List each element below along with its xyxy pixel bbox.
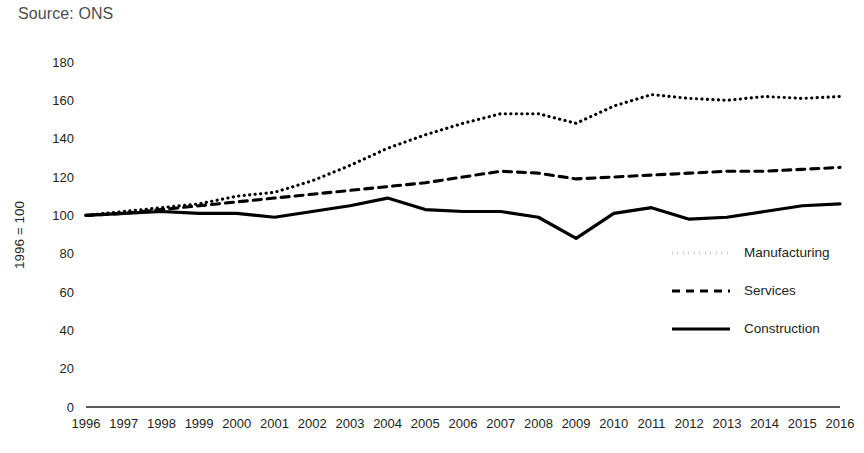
x-tick-label: 2007	[486, 416, 515, 431]
legend-label-manufacturing: Manufacturing	[744, 245, 830, 260]
chart-legend: ManufacturingServicesConstruction	[672, 245, 830, 336]
y-tick-label: 120	[52, 170, 74, 185]
y-tick-label: 20	[60, 361, 74, 376]
y-tick-label: 160	[52, 93, 74, 108]
x-tick-label: 2014	[750, 416, 779, 431]
y-tick-label: 60	[60, 285, 74, 300]
x-tick-label: 2000	[222, 416, 251, 431]
x-tick-label: 2003	[335, 416, 364, 431]
x-axis-ticks: 1996199719981999200020012002200320042005…	[72, 416, 855, 431]
x-tick-label: 2011	[638, 416, 666, 431]
x-tick-label: 2016	[826, 416, 855, 431]
y-tick-label: 80	[60, 246, 74, 261]
y-tick-label: 0	[67, 400, 74, 415]
x-tick-label: 2010	[599, 416, 628, 431]
series-group	[86, 95, 840, 239]
x-tick-label: 2008	[524, 416, 553, 431]
x-tick-label: 2001	[260, 416, 289, 431]
line-chart-plot: 1996 = 100 020406080100120140160180 1996…	[0, 0, 864, 453]
x-tick-label: 2004	[373, 416, 402, 431]
y-axis-ticks: 020406080100120140160180	[52, 55, 74, 415]
legend-label-construction: Construction	[744, 321, 820, 336]
y-tick-label: 140	[52, 131, 74, 146]
chart-container: Source: ONS 1996 = 100 02040608010012014…	[0, 0, 864, 453]
y-tick-label: 40	[60, 323, 74, 338]
x-tick-label: 1996	[72, 416, 101, 431]
y-tick-label: 100	[52, 208, 74, 223]
y-tick-label: 180	[52, 55, 74, 70]
x-tick-label: 2012	[675, 416, 704, 431]
y-axis-title: 1996 = 100	[12, 201, 27, 269]
series-line-construction	[86, 198, 840, 238]
x-tick-label: 1998	[147, 416, 176, 431]
x-tick-label: 2005	[411, 416, 440, 431]
x-tick-label: 1997	[109, 416, 138, 431]
x-tick-label: 1999	[185, 416, 214, 431]
x-tick-label: 2013	[712, 416, 741, 431]
x-tick-label: 2009	[562, 416, 591, 431]
series-line-manufacturing	[86, 95, 840, 216]
x-tick-label: 2002	[298, 416, 327, 431]
x-tick-label: 2015	[788, 416, 817, 431]
series-line-services	[86, 167, 840, 215]
x-tick-label: 2006	[449, 416, 478, 431]
y-axis-title-group: 1996 = 100	[12, 201, 27, 269]
legend-label-services: Services	[744, 283, 796, 298]
